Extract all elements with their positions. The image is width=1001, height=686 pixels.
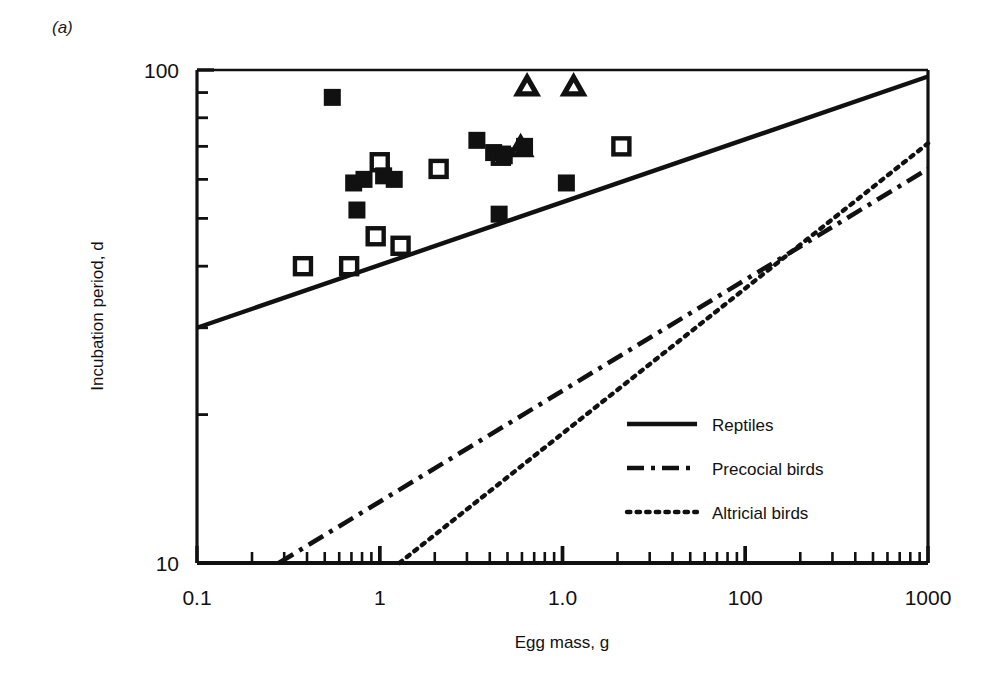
marker-filled-square-11 xyxy=(558,174,575,191)
x-tick-label-3: 100 xyxy=(728,586,763,609)
axis-ticks xyxy=(197,70,928,563)
marker-open-square-3 xyxy=(368,228,384,244)
y-tick-label-1: 100 xyxy=(144,59,179,82)
trend-line-reptiles xyxy=(197,77,928,328)
legend-label-2: Altricial birds xyxy=(712,504,808,523)
x-tick-label-1: 1 xyxy=(374,586,386,609)
figure-container: (a) 0.111.0100100010100 ReptilesPrecocia… xyxy=(0,0,1001,686)
x-tick-label-4: 1000 xyxy=(905,586,952,609)
y-axis-title: Incubation period, d xyxy=(88,241,107,390)
axis-tick-labels: 0.111.0100100010100 xyxy=(144,59,951,609)
marker-filled-square-10 xyxy=(491,206,508,223)
x-tick-label-2: 1.0 xyxy=(548,586,577,609)
x-axis-title: Egg mass, g xyxy=(515,633,610,652)
marker-open-square-0 xyxy=(295,258,311,274)
axes xyxy=(197,70,928,563)
data-markers xyxy=(295,77,629,274)
chart-legend: ReptilesPrecocial birdsAltricial birds xyxy=(627,416,824,523)
marker-filled-square-2 xyxy=(355,171,372,188)
trend-lines xyxy=(197,77,928,563)
marker-open-square-4 xyxy=(393,238,409,254)
y-tick-label-0: 10 xyxy=(156,552,179,575)
marker-open-square-7 xyxy=(613,138,629,154)
marker-open-square-2 xyxy=(431,161,447,177)
marker-open-triangle-0 xyxy=(518,77,537,94)
marker-filled-square-6 xyxy=(468,132,485,149)
legend-label-0: Reptiles xyxy=(712,416,773,435)
marker-filled-square-0 xyxy=(324,89,341,106)
marker-filled-square-5 xyxy=(348,202,365,219)
scatter-plot: 0.111.0100100010100 ReptilesPrecocial bi… xyxy=(0,0,1001,686)
marker-filled-square-4 xyxy=(386,171,403,188)
panel-label-text: (a) xyxy=(52,18,73,37)
panel-label: (a) xyxy=(52,18,73,38)
marker-open-triangle-1 xyxy=(564,77,583,94)
legend-label-1: Precocial birds xyxy=(712,460,824,479)
x-tick-label-0: 0.1 xyxy=(182,586,211,609)
trend-line-altricial-birds xyxy=(399,143,928,563)
